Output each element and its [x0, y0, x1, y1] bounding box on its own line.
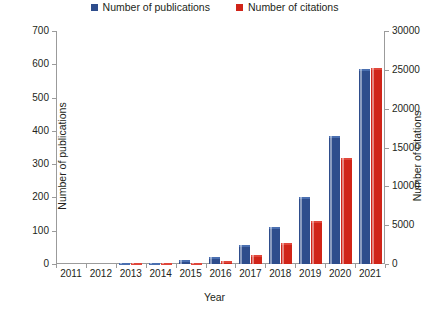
x-axis-tick-label: 2016 — [209, 268, 231, 279]
bar-highlight — [120, 263, 122, 264]
bar-highlight — [180, 260, 182, 264]
bar-highlight — [312, 221, 314, 264]
y-axis-left-title: Number of publications — [56, 102, 68, 209]
y-axis-left-tick — [52, 64, 56, 65]
y-axis-right-tick — [385, 225, 389, 226]
bar-citations — [221, 261, 232, 264]
bar-publications — [359, 69, 370, 264]
x-axis-tick-label: 2015 — [179, 268, 201, 279]
x-axis-tick-label: 2013 — [120, 268, 142, 279]
y-axis-right-tick — [385, 31, 389, 32]
bar-publications — [179, 260, 190, 264]
y-axis-right-tick — [385, 109, 389, 110]
x-axis-tick-label: 2020 — [329, 268, 351, 279]
legend-entry-publications: Number of publications — [91, 2, 210, 13]
bar-publications — [239, 245, 250, 264]
y-axis-right-tick-label: 0 — [392, 259, 398, 269]
bar-highlight — [162, 263, 164, 264]
bar-highlight — [240, 245, 242, 264]
y-axis-left-tick — [52, 98, 56, 99]
bar-highlight — [222, 261, 224, 264]
bar-chart: Number of publications Number of citatio… — [0, 0, 429, 312]
x-axis-tick — [355, 264, 356, 268]
x-axis-tick — [325, 264, 326, 268]
bar-publications — [329, 136, 340, 264]
bar-highlight — [252, 255, 254, 264]
x-axis-tick-label: 2014 — [150, 268, 172, 279]
chart-legend: Number of publications Number of citatio… — [0, 2, 429, 13]
bar-highlight — [330, 136, 332, 264]
bar-highlight — [192, 263, 194, 264]
bar-publications — [269, 227, 280, 264]
bar-highlight — [360, 69, 362, 264]
y-axis-left-tick-label: 200 — [32, 192, 49, 202]
x-axis-tick — [385, 264, 386, 268]
x-axis-tick-label: 2019 — [299, 268, 321, 279]
y-axis-right-tick — [385, 186, 389, 187]
bar-publications — [299, 197, 310, 264]
legend-label-publications: Number of publications — [103, 2, 210, 13]
square-red-icon — [236, 4, 243, 11]
bar-citations — [131, 263, 142, 264]
legend-entry-citations: Number of citations — [236, 2, 338, 13]
y-axis-left-tick-label: 600 — [32, 59, 49, 69]
bar-citations — [251, 255, 262, 264]
y-axis-left-tick — [52, 31, 56, 32]
bar-citations — [161, 263, 172, 264]
x-axis-tick-label: 2018 — [269, 268, 291, 279]
y-axis-left-tick-label: 700 — [32, 26, 49, 36]
bar-publications — [209, 257, 220, 264]
x-axis-tick-label: 2011 — [60, 268, 82, 279]
bar-highlight — [150, 263, 152, 264]
bar-citations — [311, 221, 322, 264]
y-axis-left-tick-label: 0 — [43, 259, 49, 269]
y-axis-right-tick-label: 5000 — [392, 220, 414, 230]
bar-highlight — [132, 263, 134, 264]
x-axis-tick — [206, 264, 207, 268]
bar-citations — [191, 263, 202, 264]
y-axis-left-tick-label: 300 — [32, 159, 49, 169]
x-axis-tick — [116, 264, 117, 268]
y-axis-right-tick-label: 25000 — [392, 65, 420, 75]
bar-highlight — [342, 158, 344, 264]
bar-citations — [371, 68, 382, 264]
x-axis-tick — [176, 264, 177, 268]
x-axis-tick-label: 2021 — [359, 268, 381, 279]
y-axis-left-tick-label: 100 — [32, 226, 49, 236]
y-axis-left-tick-label: 500 — [32, 93, 49, 103]
x-axis-tick-label: 2012 — [90, 268, 112, 279]
y-axis-right-title: Number of citations — [411, 111, 423, 201]
square-blue-icon — [91, 4, 98, 11]
bar-highlight — [210, 257, 212, 264]
y-axis-right-tick-label: 30000 — [392, 26, 420, 36]
x-axis-title: Year — [0, 291, 429, 303]
bar-highlight — [270, 227, 272, 264]
x-axis-tick-label: 2017 — [239, 268, 261, 279]
x-axis-tick — [265, 264, 266, 268]
y-axis-left-tick — [52, 231, 56, 232]
bar-citations — [341, 158, 352, 264]
x-axis-tick — [146, 264, 147, 268]
bar-citations — [281, 243, 292, 264]
x-axis-tick — [235, 264, 236, 268]
bar-highlight — [282, 243, 284, 264]
bar-highlight — [372, 68, 374, 264]
bar-publications — [119, 263, 130, 264]
y-axis-right-tick — [385, 70, 389, 71]
y-axis-right-tick — [385, 148, 389, 149]
plot-area: 0100200300400500600700050001000015000200… — [56, 31, 385, 264]
legend-label-citations: Number of citations — [248, 2, 338, 13]
y-axis-left-tick-label: 400 — [32, 126, 49, 136]
x-axis-tick — [295, 264, 296, 268]
bar-highlight — [300, 197, 302, 264]
bar-publications — [149, 263, 160, 264]
x-axis-tick — [86, 264, 87, 268]
x-axis-tick — [56, 264, 57, 268]
